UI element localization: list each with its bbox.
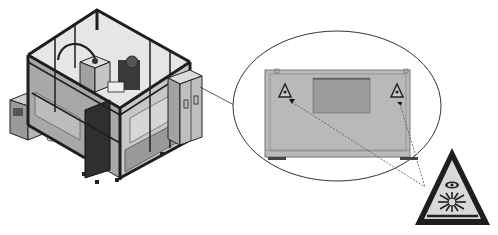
chip-conveyor: [85, 100, 110, 178]
laser-warning-sign: [415, 148, 490, 225]
machine-cell: [10, 10, 202, 184]
callout-ellipse: [233, 31, 441, 181]
enclosure-panel: [265, 69, 418, 160]
diagram-canvas: [0, 0, 498, 235]
callout-leader-line: [200, 87, 236, 106]
eye-icon: [445, 182, 459, 189]
electrical-cabinet: [168, 70, 202, 145]
